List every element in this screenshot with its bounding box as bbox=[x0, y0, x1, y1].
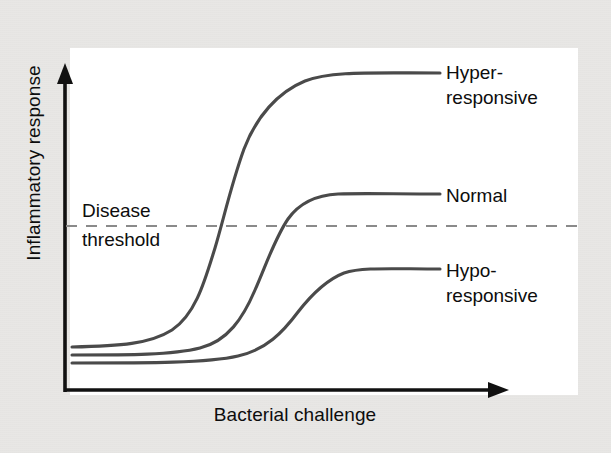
disease-threshold-label-line1: Disease bbox=[82, 196, 160, 225]
series-label-hyper-line1: Hyper- bbox=[446, 60, 538, 85]
series-label-hypo-line2: responsive bbox=[446, 283, 538, 308]
disease-threshold-label-line2: threshold bbox=[82, 225, 160, 254]
x-axis-label: Bacterial challenge bbox=[130, 404, 460, 426]
series-label-hyper-responsive: Hyper- responsive bbox=[446, 60, 538, 110]
y-axis-label: Inflammatory response bbox=[23, 33, 45, 293]
series-label-hypo-responsive: Hypo- responsive bbox=[446, 258, 538, 308]
series-label-normal-text: Normal bbox=[446, 183, 507, 208]
series-label-hypo-line1: Hypo- bbox=[446, 258, 538, 283]
figure-frame: Inflammatory response Bacterial challeng… bbox=[0, 0, 611, 453]
disease-threshold-label: Disease threshold bbox=[82, 196, 160, 254]
series-label-hyper-line2: responsive bbox=[446, 85, 538, 110]
series-label-normal: Normal bbox=[446, 183, 507, 208]
